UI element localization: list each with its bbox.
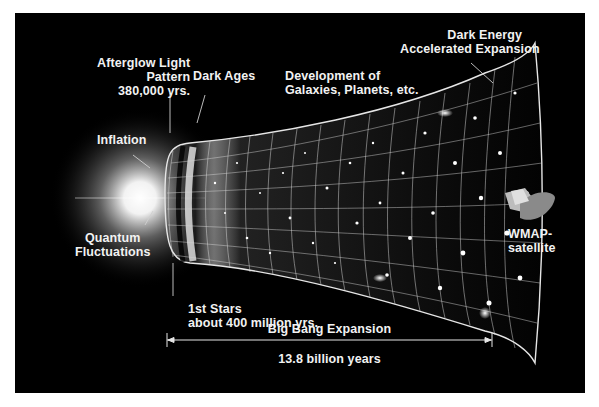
dark-energy-line-2: Accelerated Expansion: [400, 42, 522, 56]
duration-label: 13.8 billion years: [167, 352, 492, 366]
afterglow-line-2: Pattern: [97, 70, 190, 84]
dark-energy-line-1: Dark Energy: [400, 28, 522, 42]
dark-ages-line: Dark Ages: [193, 69, 255, 83]
quantum-line-2: Fluctuations: [75, 245, 151, 259]
wmap-line-2: satellite: [508, 241, 555, 255]
inflation-label: Inflation: [97, 133, 147, 147]
dark-energy-label: Dark Energy Accelerated Expansion: [400, 28, 522, 56]
diagram-panel: Afterglow Light Pattern 380,000 yrs. Dar…: [15, 13, 585, 393]
development-line-2: Galaxies, Planets, etc.: [285, 83, 419, 97]
development-label: Development of Galaxies, Planets, etc.: [285, 69, 419, 97]
quantum-line-1: Quantum: [75, 231, 151, 245]
afterglow-label: Afterglow Light Pattern 380,000 yrs.: [97, 56, 190, 98]
development-line-1: Development of: [285, 69, 419, 83]
expansion-title-text: Big Bang Expansion: [167, 322, 492, 336]
duration-text: 13.8 billion years: [167, 352, 492, 366]
wmap-label: WMAP- satellite: [508, 227, 555, 255]
first-stars-line-1: 1st Stars: [188, 302, 318, 316]
big-bang-expansion-title: Big Bang Expansion: [167, 322, 492, 336]
dark-ages-label: Dark Ages: [193, 69, 255, 83]
quantum-fluctuations-label: Quantum Fluctuations: [75, 231, 151, 259]
afterglow-line-1: Afterglow Light: [97, 56, 190, 70]
wmap-line-1: WMAP-: [508, 227, 555, 241]
afterglow-line-3: 380,000 yrs.: [97, 84, 190, 98]
inflation-line: Inflation: [97, 133, 147, 147]
